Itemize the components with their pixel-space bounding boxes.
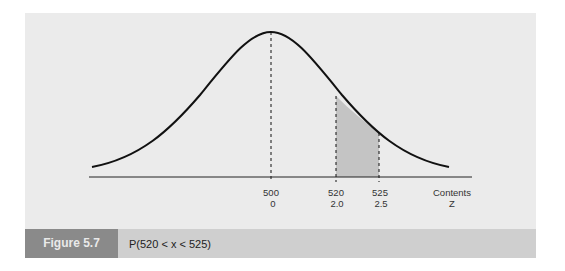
figure-caption-bar: Figure 5.7 P(520 < x < 525) — [25, 229, 536, 258]
shaded-region — [336, 96, 379, 177]
tick-label-z-2-5: 2.5 — [374, 198, 387, 209]
x-axis-title: Contents — [433, 187, 471, 198]
z-axis-title: Z — [449, 198, 455, 209]
tick-label-z-0: 0 — [270, 198, 275, 209]
tick-label-x-525: 525 — [372, 187, 388, 198]
figure-number-label: Figure 5.7 — [25, 229, 118, 258]
figure-caption-text: P(520 < x < 525) — [129, 229, 211, 258]
tick-label-x-500: 500 — [263, 187, 279, 198]
tick-label-x-520: 520 — [328, 187, 344, 198]
tick-label-z-2: 2.0 — [330, 198, 343, 209]
